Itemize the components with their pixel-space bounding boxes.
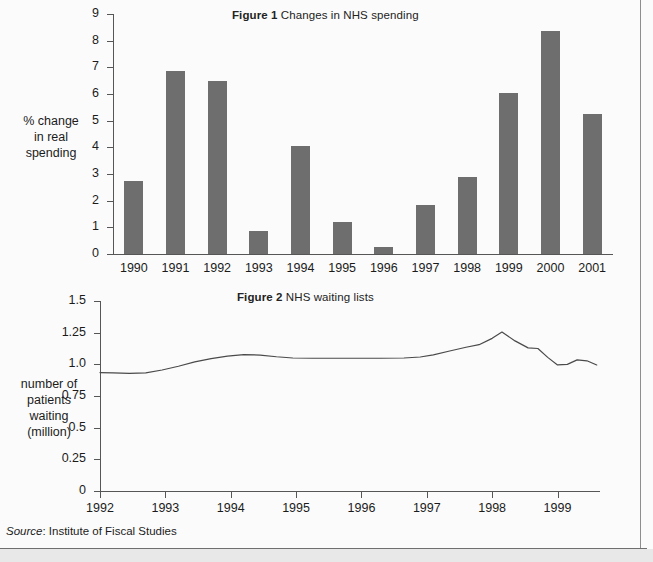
source-note-prefix: Source [6,525,42,537]
figure-1-y-tick-label: 4 [67,139,99,153]
figure-2-x-tick-label: 1997 [402,501,452,515]
figure-1-bar [208,81,227,254]
figure-2-x-tick [165,492,166,498]
figure-1-bar [416,205,435,254]
figure-1-y-tick-label: 3 [67,166,99,180]
figure-2: Figure 2 NHS waiting lists number of pat… [0,282,653,522]
figure-1-bar [333,222,352,254]
figure-2-x-tick [492,492,493,498]
figure-1-y-tick [107,174,113,175]
figure-2-y-tick-label: 0.25 [52,451,86,465]
figure-1-y-axis-line [113,14,114,254]
figure-1-y-tick-label: 0 [67,246,99,260]
figure-2-x-tick-label: 1992 [75,501,125,515]
figure-1-y-tick [107,201,113,202]
figure-2-line-path [100,332,597,373]
figure-1-y-tick [107,121,113,122]
figure-1-y-tick [107,147,113,148]
figure-1-y-tick [107,41,113,42]
figure-1-y-tick-label: 2 [67,193,99,207]
figure-1-bar [541,31,560,254]
figure-2-x-tick-label: 1996 [336,501,386,515]
figure-1-bar [249,231,268,254]
source-note-text: : Institute of Fiscal Studies [42,525,176,537]
figure-1: Figure 1 Changes in NHS spending % chang… [0,0,653,282]
figure-1-y-tick-label: 8 [67,33,99,47]
figure-2-y-tick-label: 1.25 [52,325,86,339]
figure-2-x-tick [558,492,559,498]
figure-2-plot-area: 00.250.50.751.01.251.5199219931994199519… [100,301,600,491]
figure-2-y-tick-label: 0 [52,483,86,497]
figure-2-y-tick-label: 1.0 [52,356,86,370]
figure-2-x-axis-line [100,491,600,492]
page-shadow-bottom [0,549,653,562]
figure-1-bar [458,177,477,254]
figure-1-y-tick [107,227,113,228]
figure-1-x-tick-label: 2001 [567,261,617,275]
figure-2-y-tick-label: 0.75 [52,388,86,402]
figure-1-bar [291,146,310,254]
source-note: Source: Institute of Fiscal Studies [6,525,177,537]
figure-1-bar [124,181,143,254]
figure-2-x-tick [361,492,362,498]
figure-2-x-tick [296,492,297,498]
figure-2-x-tick-label: 1993 [140,501,190,515]
figure-page: Figure 1 Changes in NHS spending % chang… [0,0,653,562]
figure-1-y-tick-label: 5 [67,113,99,127]
figure-1-plot-area: 0123456789199019911992199319941995199619… [113,14,613,254]
figure-2-x-tick-label: 1994 [206,501,256,515]
figure-1-bar [499,93,518,254]
figure-1-x-axis-line [113,254,613,255]
figure-1-y-tick-label: 7 [67,59,99,73]
figure-2-line-series [100,301,600,491]
figure-1-y-tick [107,94,113,95]
figure-1-y-tick-label: 1 [67,219,99,233]
figure-2-x-tick [231,492,232,498]
figure-1-y-tick [107,67,113,68]
figure-1-y-tick-label: 6 [67,86,99,100]
figure-2-x-tick [427,492,428,498]
figure-1-y-tick [107,254,113,255]
figure-1-bar [374,247,393,254]
figure-2-x-tick-label: 1998 [467,501,517,515]
figure-1-y-tick-label: 9 [67,6,99,20]
figure-2-y-tick-label: 0.5 [52,420,86,434]
figure-2-x-tick-label: 1995 [271,501,321,515]
figure-1-bar [166,71,185,254]
figure-1-bar [583,114,602,254]
figure-1-y-tick [107,14,113,15]
figure-2-x-tick-label: 1999 [533,501,583,515]
figure-2-x-tick [100,492,101,498]
figure-2-y-tick-label: 1.5 [52,293,86,307]
